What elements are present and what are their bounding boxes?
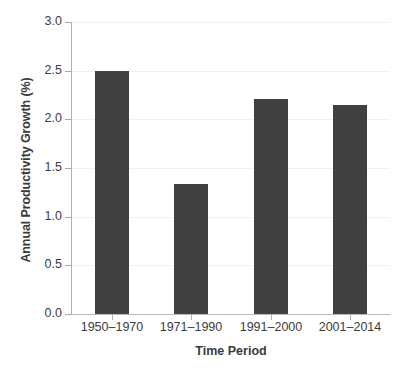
y-axis-tick-label: 2.0	[2, 111, 62, 125]
y-axis-tick-mark	[65, 217, 72, 218]
y-axis-tick-label: 0.5	[2, 257, 62, 271]
y-axis-tick-label: 3.0	[2, 14, 62, 28]
bar	[254, 99, 288, 314]
y-axis-tick-label: 1.5	[2, 160, 62, 174]
bar	[333, 105, 367, 314]
bar	[174, 184, 208, 314]
bar-chart-figure: Annual Productivity Growth (%) 0.00.51.0…	[0, 0, 402, 371]
y-axis-tick-mark	[65, 71, 72, 72]
x-axis-title: Time Period	[72, 344, 390, 358]
y-axis-tick-mark	[65, 314, 72, 315]
y-axis-tick-label: 2.5	[2, 63, 62, 77]
plot-area	[72, 22, 390, 314]
y-axis-tick-mark	[65, 265, 72, 266]
y-axis-tick-mark	[65, 119, 72, 120]
y-axis-tick-mark	[65, 22, 72, 23]
gridline	[72, 314, 390, 315]
y-axis-tick-label: 1.0	[2, 209, 62, 223]
x-axis-tick-label: 2001–2014	[302, 320, 398, 334]
bar	[95, 71, 129, 314]
y-axis-tick-mark	[65, 168, 72, 169]
y-axis-tick-label: 0.0	[2, 306, 62, 320]
